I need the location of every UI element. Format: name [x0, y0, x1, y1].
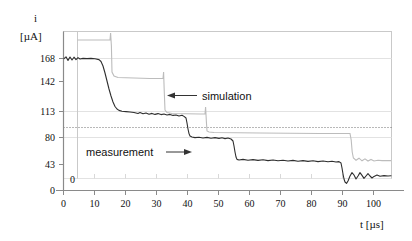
y-axis-symbol: i [34, 12, 37, 24]
measurement-label: measurement [86, 146, 153, 158]
x-ticks [64, 191, 374, 196]
x-tick-label-30: 30 [152, 198, 162, 209]
y-tick-label-43: 43 [45, 159, 55, 170]
y-tick-label-80: 80 [45, 132, 55, 143]
x-tick-labels: 0 10 20 30 40 50 60 70 80 90 100 [61, 198, 381, 209]
y-axis-unit: [µA] [20, 30, 42, 42]
x-tick-label-20: 20 [121, 198, 131, 209]
x-axis-label: t [µs] [360, 218, 384, 230]
y-tick-label-142: 142 [40, 76, 55, 87]
inner-zero-label: 0 [70, 174, 75, 185]
y-tick-label-0: 0 [50, 185, 55, 196]
x-tick-label-60: 60 [245, 198, 255, 209]
chart-svg: simulation measurement i [µA] 168 142 11… [0, 0, 412, 241]
y-tick-label-168: 168 [40, 53, 55, 64]
y-tick-label-113: 113 [40, 106, 55, 117]
x-tick-label-90: 90 [338, 198, 348, 209]
y-ticks [59, 59, 64, 191]
x-tick-label-70: 70 [276, 198, 286, 209]
y-tick-labels: 168 142 113 80 43 0 [40, 53, 55, 196]
x-tick-label-80: 80 [307, 198, 317, 209]
x-tick-label-10: 10 [90, 198, 100, 209]
x-tick-label-0: 0 [61, 198, 66, 209]
simulation-label: simulation [202, 90, 252, 102]
x-tick-label-50: 50 [214, 198, 224, 209]
figure-container: simulation measurement i [µA] 168 142 11… [0, 0, 412, 241]
x-tick-label-40: 40 [183, 198, 193, 209]
x-tick-label-100: 100 [366, 198, 381, 209]
